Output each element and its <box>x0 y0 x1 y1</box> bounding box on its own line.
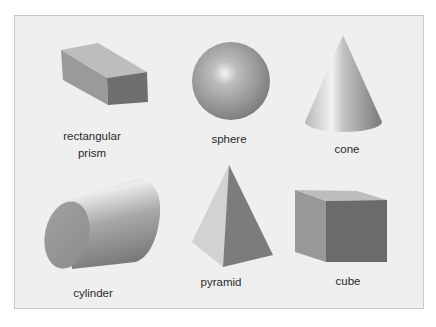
cylinder-label: cylinder <box>43 285 143 301</box>
rectangular-prism-shape <box>61 43 148 105</box>
cube-shape <box>295 190 387 262</box>
cylinder-shape <box>38 179 160 273</box>
cube-label: cube <box>298 273 398 289</box>
pyramid-shape <box>192 165 273 267</box>
sphere-shape <box>192 42 270 120</box>
cone-label: cone <box>297 141 397 157</box>
cone-shape <box>305 35 382 132</box>
pyramid-label: pyramid <box>171 274 271 290</box>
sphere-label: sphere <box>179 131 279 147</box>
rectangular-prism-label-line2: prism <box>42 145 142 161</box>
rectangular-prism-label-line1: rectangular <box>42 128 142 144</box>
